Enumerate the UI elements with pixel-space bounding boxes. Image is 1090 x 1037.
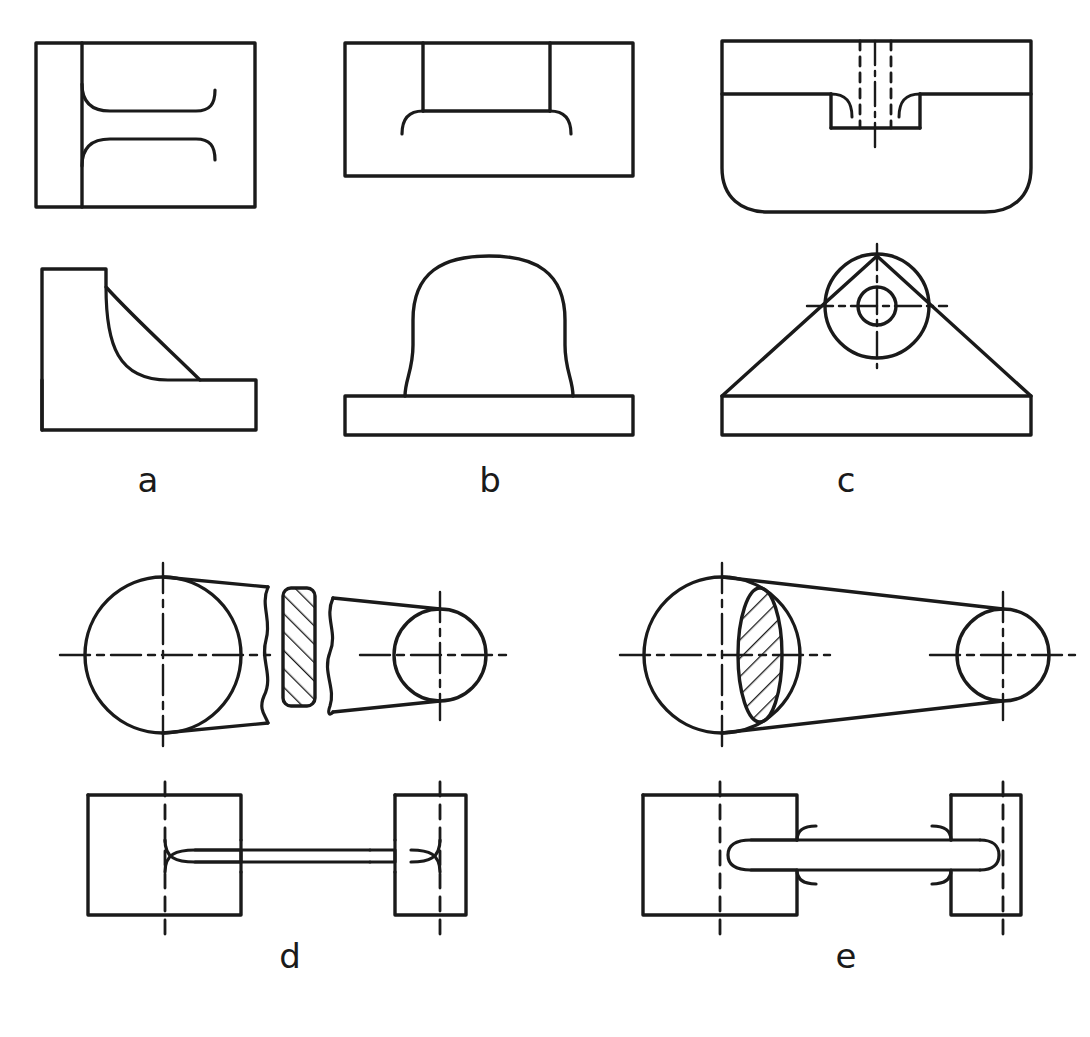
- fig-c-base-plate: [722, 396, 1031, 435]
- fig-a-lower-runout: [82, 139, 215, 166]
- fig-e-neck-upper-right-fillet: [932, 826, 951, 840]
- figure-d-top-view: [60, 563, 512, 750]
- fig-d-taper-lower-right: [333, 701, 440, 712]
- figure-a-front-view: [42, 269, 256, 430]
- fig-a-top-outline: [36, 43, 255, 207]
- fig-d-taper-upper-right: [333, 598, 440, 609]
- drawing-plate: a b c d e: [0, 0, 1090, 1037]
- technical-drawing-canvas: a b c d e: [0, 0, 1090, 1037]
- fig-d-removed-section-hatch: [283, 588, 315, 706]
- fig-e-neck-left-round-end: [728, 840, 797, 870]
- figure-b-top-view: [345, 43, 633, 176]
- fig-e-neck-upper-left-fillet: [797, 826, 816, 840]
- figure-label-e: e: [836, 936, 857, 976]
- fig-e-neck-lower-left-fillet: [797, 870, 816, 884]
- figure-e-front-view: [643, 782, 1021, 935]
- figure-e-top-view: [620, 563, 1075, 750]
- figure-c-top-view: [722, 41, 1031, 212]
- fig-e-right-block: [951, 795, 1021, 915]
- fig-b-left-runout: [402, 111, 423, 134]
- fig-b-right-runout: [550, 111, 571, 134]
- fig-e-neck-lower-right-fillet: [932, 870, 951, 884]
- fig-e-neck-right-round-end: [980, 840, 999, 870]
- fig-c-left-runout: [831, 94, 852, 117]
- fig-b-base-plate: [345, 396, 633, 435]
- fig-d-taper-upper-left: [163, 577, 268, 587]
- fig-d-break-line-right: [327, 598, 333, 714]
- fig-b-dome-boss: [405, 256, 573, 396]
- figure-c-front-view: [722, 244, 1031, 435]
- figure-label-b: b: [479, 460, 501, 500]
- fig-a-front-outline: [42, 269, 256, 430]
- fig-a-upper-runout: [82, 84, 215, 111]
- figure-label-d: d: [279, 936, 301, 976]
- figure-d-front-view: [88, 782, 466, 935]
- fig-c-right-runout: [899, 94, 920, 117]
- figure-b-front-view: [345, 256, 633, 435]
- fig-d-taper-lower-left: [163, 723, 268, 733]
- figure-a-top-view: [36, 43, 255, 207]
- figure-label-a: a: [138, 460, 159, 500]
- figure-label-c: c: [837, 460, 856, 500]
